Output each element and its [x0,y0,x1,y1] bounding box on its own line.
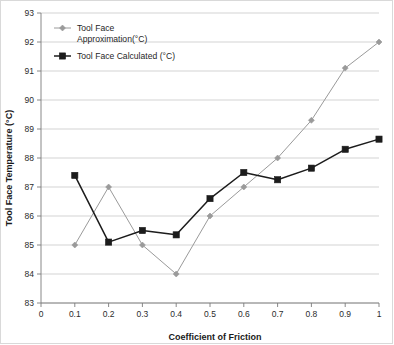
y-tick-label: 86 [25,211,35,221]
x-tick-label: 0 [39,309,44,319]
legend-label-approximation-line2: Approximation(°C) [77,34,147,44]
data-point [207,196,213,202]
data-point [139,227,145,233]
data-point [72,242,78,248]
y-tick-label: 88 [25,153,35,163]
y-tick-label: 84 [25,269,35,279]
data-point [241,169,247,175]
y-tick-label: 85 [25,240,35,250]
legend-marker-approximation [60,25,66,31]
y-tick-label: 91 [25,66,35,76]
y-tick-label: 83 [25,298,35,308]
data-point [106,239,112,245]
x-tick-label: 1 [377,309,382,319]
series-calculated [72,136,382,245]
y-tick-label: 89 [25,124,35,134]
data-point [106,184,112,190]
x-tick-label: 0.1 [69,309,81,319]
line-chart: 8384858687888990919293 00.10.20.30.40.50… [0,0,394,345]
x-tick-label: 0.4 [170,309,182,319]
y-tick-label: 87 [25,182,35,192]
data-point [342,146,348,152]
data-point [376,136,382,142]
y-tick-label: 93 [25,8,35,18]
data-point [173,232,179,238]
data-point [308,165,314,171]
x-tick-label: 0.3 [136,309,148,319]
x-axis-title: Coefficient of Friction [169,332,262,342]
x-tick-label: 0.7 [272,309,284,319]
y-tick-label: 90 [25,95,35,105]
y-axis-title: Tool Face Temperature (°C) [4,110,14,226]
legend-label-approximation-line1: Tool Face [77,23,114,33]
x-tick-labels-group: 00.10.20.30.40.50.60.70.80.91 [39,309,382,319]
y-tick-label: 92 [25,37,35,47]
x-tick-label: 0.5 [204,309,216,319]
x-tick-label: 0.6 [238,309,250,319]
legend-marker-calculated [59,53,65,59]
data-point [72,172,78,178]
x-tick-label: 0.8 [305,309,317,319]
x-tick-label: 0.9 [339,309,351,319]
data-point [275,177,281,183]
y-tick-labels-group: 8384858687888990919293 [25,8,35,308]
chart-figure: 8384858687888990919293 00.10.20.30.40.50… [0,0,394,345]
x-tick-label: 0.2 [103,309,115,319]
legend-label-calculated: Tool Face Calculated (°C) [77,51,175,61]
plot-area-wrapper: 8384858687888990919293 00.10.20.30.40.50… [0,0,394,345]
series-line [75,139,379,242]
